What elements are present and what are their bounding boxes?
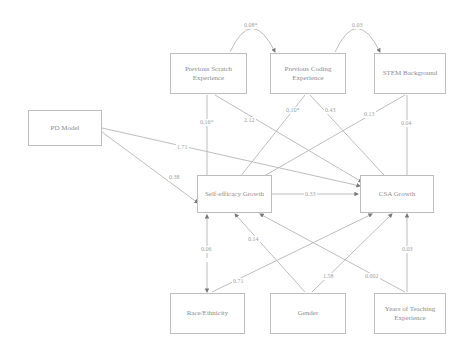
node-years-teaching-experience: Years of Teaching Experience <box>374 293 446 334</box>
label-coding-to-se: 0.10* <box>285 107 301 114</box>
label-years-to-se: 0.002 <box>364 273 380 280</box>
node-previous-coding-experience: Previous Coding Experience <box>270 53 346 94</box>
label-pd-to-csa: 1.71 <box>176 144 189 151</box>
label-pd-to-se: 0.38 <box>168 174 181 181</box>
label-scratch-to-se: 0.16* <box>199 119 215 126</box>
label-race-to-csa: 0.71 <box>232 278 245 285</box>
label-se-to-csa: 0.33 <box>304 191 317 198</box>
node-stem-background: STEM Background <box>374 53 446 94</box>
node-csa-growth: CSA Growth <box>360 175 434 213</box>
node-race-ethnicity: Race/Ethnicity <box>170 293 245 334</box>
label-race-to-se: 0.06 <box>200 246 213 253</box>
label-stem-to-csa: 0.04 <box>400 120 413 127</box>
label-gender-to-csa: 1.58 <box>322 273 335 280</box>
label-scratch-to-csa: 2.12 <box>243 117 256 124</box>
label-gender-to-se: 0.14 <box>247 236 260 243</box>
node-gender: Gender <box>270 293 346 334</box>
node-previous-scratch-experience: Previous Scratch Experience <box>170 53 247 94</box>
cov-scratch-coding <box>230 29 275 53</box>
node-pd-model: PD Model <box>28 110 102 146</box>
label-coding-stem-cov: 0.03 <box>351 22 364 29</box>
node-self-efficacy-growth: Self-efficacy Growth <box>197 175 272 213</box>
label-years-to-csa: 0.03 <box>401 246 414 253</box>
label-scratch-coding-cov: 0.08* <box>243 22 259 29</box>
cov-coding-stem <box>335 29 380 53</box>
label-stem-to-se: 0.13 <box>363 111 376 118</box>
label-coding-to-csa: 0.43 <box>324 107 337 114</box>
